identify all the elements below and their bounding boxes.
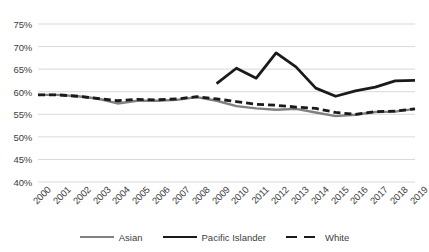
legend-swatch-icon <box>80 232 114 243</box>
x-axis-tick-label: 2006 <box>150 184 172 206</box>
x-axis-tick-label: 2005 <box>130 184 152 206</box>
legend-label: Pacific Islander <box>202 232 266 243</box>
x-axis-tick-label: 2013 <box>289 184 311 206</box>
x-axis-tick-label: 2014 <box>308 184 330 206</box>
x-axis-tick-label: 2002 <box>70 184 92 206</box>
series-lines <box>38 24 415 182</box>
x-axis-tick-label: 2016 <box>348 184 370 206</box>
y-axis: 75%70%65%60%55%50%45%40% <box>0 0 36 252</box>
y-axis-tick-label: 60% <box>14 86 32 97</box>
x-axis-tick-label: 2010 <box>229 184 251 206</box>
y-axis-tick-label: 55% <box>14 109 32 120</box>
x-axis-tick-label: 2004 <box>110 184 132 206</box>
legend-entry-asian[interactable]: Asian <box>80 232 143 243</box>
x-axis-tick-label: 2001 <box>50 184 72 206</box>
series-line-pacific-islander <box>217 53 415 96</box>
x-axis-tick-label: 2017 <box>368 184 390 206</box>
y-axis-tick-label: 75% <box>14 19 32 30</box>
y-axis-tick-label: 45% <box>14 154 32 165</box>
x-axis-tick-label: 2007 <box>170 184 192 206</box>
x-axis-tick-label: 2008 <box>189 184 211 206</box>
x-axis-tick-label: 2003 <box>90 184 112 206</box>
y-axis-tick-label: 40% <box>14 177 32 188</box>
legend-entry-pacific-islander[interactable]: Pacific Islander <box>163 232 266 243</box>
y-axis-tick-label: 70% <box>14 41 32 52</box>
legend-label: Asian <box>119 232 143 243</box>
chart-legend: AsianPacific IslanderWhite <box>0 226 429 248</box>
legend-entry-white[interactable]: White <box>286 232 349 243</box>
legend-label: White <box>325 232 349 243</box>
legend-swatch-icon <box>163 232 197 243</box>
plot-area <box>38 24 415 182</box>
x-axis-tick-label: 2011 <box>249 184 271 206</box>
x-axis-tick-label: 2018 <box>388 184 410 206</box>
x-axis-tick-label: 2015 <box>328 184 350 206</box>
legend-swatch-icon <box>286 232 320 243</box>
line-chart: 75%70%65%60%55%50%45%40% 200020012002200… <box>0 0 429 252</box>
y-axis-tick-label: 65% <box>14 64 32 75</box>
y-axis-tick-label: 50% <box>14 131 32 142</box>
x-axis-tick-label: 2012 <box>269 184 291 206</box>
x-axis: 2000200120022003200420052006200720082009… <box>38 184 415 224</box>
x-axis-tick-label: 2009 <box>209 184 231 206</box>
x-axis-tick-label: 2019 <box>408 184 429 206</box>
